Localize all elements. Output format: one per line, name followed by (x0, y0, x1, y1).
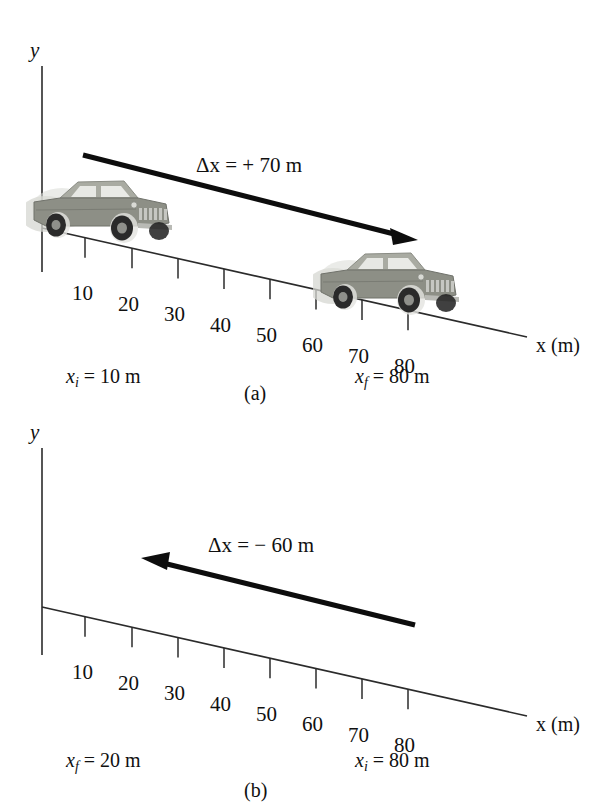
x-axis-label-a: x (m) (536, 335, 580, 355)
tick-label-70-a: 70 (348, 346, 369, 367)
initial-position-label-a: xi = 10 m (66, 366, 141, 390)
initial-position-value-b: = 80 m (373, 749, 430, 771)
x-axis-ticks-b (85, 617, 408, 710)
tick-label-70-b: 70 (348, 725, 369, 746)
pickup-truck-right-icon (26, 168, 176, 246)
tick-label-30-a: 30 (164, 304, 185, 325)
panel-tag-b: (b) (244, 780, 267, 800)
car-final-a (313, 240, 463, 318)
initial-position-subscript-a: i (75, 375, 79, 390)
final-position-label-b: xf = 20 m (66, 750, 141, 774)
panel-b: y x (m) 10 20 30 40 50 60 70 80 Δx = − 6… (0, 402, 616, 804)
panel-a: y x (m) 10 20 30 40 50 60 70 80 Δx = + 7… (0, 0, 616, 402)
tick-label-40-b: 40 (210, 694, 231, 715)
displacement-label-a: Δx = + 70 m (196, 155, 302, 176)
final-position-value-a: = 80 m (373, 365, 430, 387)
initial-position-value-a: = 10 m (84, 365, 141, 387)
y-axis-label-a: y (30, 40, 39, 61)
final-position-symbol-a: x (355, 365, 364, 387)
final-position-subscript-a: f (364, 375, 368, 390)
tick-label-50-b: 50 (256, 704, 277, 725)
x-axis-line-b (42, 607, 527, 716)
car-initial-a (26, 168, 176, 246)
tick-label-10-a: 10 (72, 283, 93, 304)
tick-label-50-a: 50 (256, 325, 277, 346)
tick-label-10-b: 10 (72, 662, 93, 683)
displacement-label-b: Δx = − 60 m (208, 535, 314, 556)
pickup-truck-right-icon (313, 240, 463, 318)
initial-position-label-b: xi = 80 m (355, 750, 430, 774)
displacement-arrow-b (141, 552, 415, 625)
tick-label-60-a: 60 (302, 335, 323, 356)
initial-position-symbol-b: x (355, 749, 364, 771)
tick-label-20-a: 20 (118, 294, 139, 315)
initial-position-subscript-b: i (364, 759, 368, 774)
tick-label-40-a: 40 (210, 315, 231, 336)
y-axis-label-b: y (30, 422, 39, 443)
panel-b-axes (0, 402, 616, 804)
initial-position-symbol-a: x (66, 365, 75, 387)
final-position-label-a: xf = 80 m (355, 366, 430, 390)
final-position-symbol-b: x (66, 749, 75, 771)
tick-label-60-b: 60 (302, 714, 323, 735)
tick-label-20-b: 20 (118, 673, 139, 694)
tick-label-30-b: 30 (164, 683, 185, 704)
displacement-figure: y x (m) 10 20 30 40 50 60 70 80 Δx = + 7… (0, 0, 616, 804)
final-position-value-b: = 20 m (84, 749, 141, 771)
final-position-subscript-b: f (75, 759, 79, 774)
x-axis-label-b: x (m) (536, 714, 580, 734)
panel-tag-a: (a) (244, 383, 266, 403)
